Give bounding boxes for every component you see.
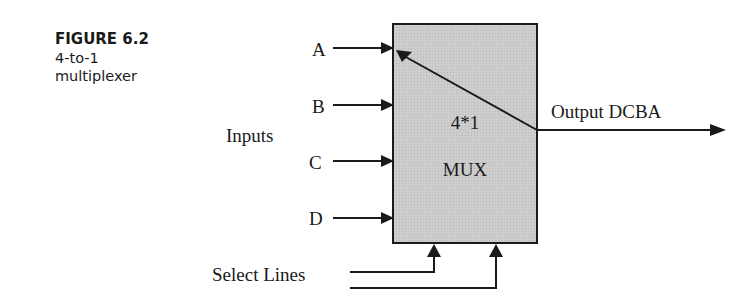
input-b: B: [312, 96, 394, 117]
mux-block: 4*1 MUX: [393, 24, 537, 243]
input-c-label: C: [309, 152, 322, 173]
select-lines: Select Lines: [212, 244, 503, 288]
inputs-label: Inputs: [226, 125, 274, 146]
input-c: C: [309, 152, 394, 173]
arrow-up-icon: [427, 244, 441, 257]
mux-label-line1: 4*1: [451, 112, 480, 133]
mux-label-line2: MUX: [443, 159, 488, 180]
arrow-right-icon: [710, 124, 726, 136]
arrow-up-icon: [489, 244, 503, 257]
output-label: Output DCBA: [551, 101, 662, 122]
input-d: D: [309, 208, 394, 229]
input-a-label: A: [312, 39, 326, 60]
input-b-label: B: [312, 96, 325, 117]
select-lines-label: Select Lines: [212, 264, 305, 285]
multiplexer-diagram: 4*1 MUX A B C D Inputs Output DCBA Selec…: [0, 0, 754, 296]
input-a: A: [312, 39, 394, 60]
output: Output DCBA: [537, 101, 726, 136]
input-d-label: D: [309, 208, 323, 229]
